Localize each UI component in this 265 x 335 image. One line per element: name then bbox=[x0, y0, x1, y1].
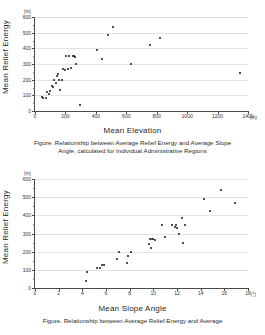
x-axis-tick-label-10: 10 bbox=[151, 291, 157, 296]
data-point bbox=[127, 255, 129, 257]
data-point bbox=[239, 72, 241, 74]
y-axis-tick-label-500: 500 bbox=[23, 195, 31, 200]
data-point bbox=[203, 198, 205, 200]
gridline-y bbox=[35, 17, 248, 18]
y-axis-tick-label-400: 400 bbox=[23, 213, 31, 218]
data-point bbox=[85, 280, 87, 282]
figure-page: (m) Mean Relief Energy 01002003004005006… bbox=[0, 0, 265, 335]
data-point bbox=[99, 267, 101, 269]
data-point bbox=[58, 79, 60, 81]
data-point bbox=[234, 202, 236, 204]
x-axis-title-top: Mean Elevation bbox=[0, 126, 265, 135]
data-point bbox=[52, 86, 54, 88]
scatter-chart-slope: (m) Mean Relief Energy 01002003004005006… bbox=[0, 162, 265, 304]
data-point bbox=[74, 56, 76, 58]
gridline-y bbox=[35, 270, 248, 271]
y-axis-minor-tick bbox=[33, 224, 35, 225]
y-axis-tick-label-200: 200 bbox=[23, 249, 31, 254]
figure-relief-vs-slope: (m) Mean Relief Energy 01002003004005006… bbox=[0, 162, 265, 335]
y-axis-minor-tick bbox=[33, 188, 35, 189]
gridline-y bbox=[35, 252, 248, 253]
x-axis-tick-label-12: 12 bbox=[174, 291, 180, 296]
scatter-chart-elevation: (m) Mean Relief Energy 01002003004005006… bbox=[0, 0, 265, 120]
x-axis-tick-label-1000: 1000 bbox=[182, 114, 193, 119]
data-point bbox=[53, 79, 55, 81]
x-axis-tick-label-18: 18 bbox=[245, 291, 251, 296]
data-point bbox=[154, 239, 156, 241]
y-axis-tick bbox=[32, 215, 35, 216]
y-axis-minor-tick bbox=[33, 261, 35, 262]
data-point bbox=[171, 224, 173, 226]
x-axis-unit-top: (m) bbox=[250, 115, 257, 120]
gridline-y bbox=[35, 80, 248, 81]
data-point bbox=[220, 189, 222, 191]
x-axis-title-bottom: Mean Slope Angle bbox=[0, 304, 265, 313]
x-axis-tick-label-14: 14 bbox=[198, 291, 204, 296]
gridline-y bbox=[35, 33, 248, 34]
x-axis-tick-label-4: 4 bbox=[81, 291, 84, 296]
data-point bbox=[67, 68, 69, 70]
x-axis-tick-label-0: 0 bbox=[34, 291, 37, 296]
gridline-y bbox=[35, 48, 248, 49]
x-axis-tick-label-200: 200 bbox=[61, 114, 69, 119]
data-point bbox=[65, 55, 67, 57]
data-point bbox=[116, 258, 118, 260]
y-axis-tick bbox=[32, 80, 35, 81]
data-point bbox=[86, 271, 88, 273]
figure-caption-top-line1: Figure. Relationship between Average Rel… bbox=[0, 139, 265, 147]
x-axis-tick-label-400: 400 bbox=[92, 114, 100, 119]
x-axis-tick-label-800: 800 bbox=[153, 114, 161, 119]
y-axis-title-top: Mean Relief Energy bbox=[2, 24, 10, 94]
y-axis-tick-label-0: 0 bbox=[28, 109, 31, 114]
gridline-y bbox=[35, 234, 248, 235]
data-point bbox=[107, 34, 109, 36]
y-axis-minor-tick bbox=[33, 206, 35, 207]
data-point bbox=[149, 44, 151, 46]
y-axis-tick bbox=[32, 234, 35, 235]
y-axis-tick-label-0: 0 bbox=[28, 286, 31, 291]
y-axis-tick-label-500: 500 bbox=[23, 30, 31, 35]
y-axis-minor-tick bbox=[33, 72, 35, 73]
y-axis-minor-tick bbox=[33, 56, 35, 57]
y-axis-tick bbox=[32, 95, 35, 96]
data-point bbox=[59, 89, 61, 91]
plot-area-top: 0100200300400500600020040060080010001200… bbox=[34, 17, 248, 112]
gridline-y bbox=[35, 215, 248, 216]
data-point bbox=[45, 97, 47, 99]
data-point bbox=[64, 69, 66, 71]
y-axis-minor-tick bbox=[33, 25, 35, 26]
x-axis-tick-label-16: 16 bbox=[222, 291, 228, 296]
y-axis-tick-label-600: 600 bbox=[23, 177, 31, 182]
y-axis-tick bbox=[32, 33, 35, 34]
data-point bbox=[175, 224, 177, 226]
x-axis-tick-label-600: 600 bbox=[122, 114, 130, 119]
data-point bbox=[118, 251, 120, 253]
data-point bbox=[103, 264, 105, 266]
data-point bbox=[55, 82, 57, 84]
data-point bbox=[209, 210, 211, 212]
data-point bbox=[57, 73, 59, 75]
y-axis-title-bottom: Mean Relief Energy bbox=[2, 194, 10, 264]
data-point bbox=[159, 37, 161, 39]
data-point bbox=[184, 224, 186, 226]
figure-relief-vs-elevation: (m) Mean Relief Energy 01002003004005006… bbox=[0, 0, 265, 160]
data-point bbox=[49, 90, 51, 92]
y-axis-tick bbox=[32, 270, 35, 271]
x-axis-tick-label-8: 8 bbox=[128, 291, 131, 296]
x-axis-tick-label-2: 2 bbox=[57, 291, 60, 296]
y-axis-tick-label-300: 300 bbox=[23, 62, 31, 67]
data-point bbox=[161, 224, 163, 226]
data-point bbox=[164, 236, 166, 238]
x-axis-tick-label-6: 6 bbox=[105, 291, 108, 296]
y-axis-minor-tick bbox=[33, 41, 35, 42]
y-axis-minor-tick bbox=[33, 88, 35, 89]
y-axis-tick-label-200: 200 bbox=[23, 77, 31, 82]
data-point bbox=[176, 227, 178, 229]
y-axis-minor-tick bbox=[33, 103, 35, 104]
y-axis-minor-tick bbox=[33, 243, 35, 244]
data-point bbox=[150, 247, 152, 249]
data-point bbox=[130, 251, 132, 253]
x-axis-unit-bottom: (°) bbox=[251, 292, 256, 297]
data-point bbox=[112, 26, 114, 28]
y-axis-tick bbox=[32, 17, 35, 18]
